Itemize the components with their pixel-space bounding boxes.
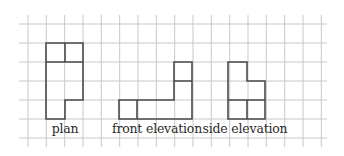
plan-inner-lines xyxy=(46,43,83,62)
front-elevation-label: front elevation xyxy=(112,122,202,136)
plan-view xyxy=(46,43,83,119)
side-elevation-label: side elevation xyxy=(203,122,288,136)
projection-diagram: plan front elevation side elevation xyxy=(0,0,344,156)
front-elevation-outline xyxy=(119,62,192,119)
plan-label: plan xyxy=(52,122,79,136)
side-elevation-view xyxy=(228,62,265,119)
side-elevation-inner-lines xyxy=(228,100,265,119)
front-elevation-view xyxy=(119,62,192,119)
